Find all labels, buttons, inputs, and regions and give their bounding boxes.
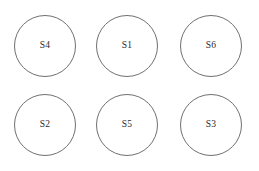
node-s1[interactable]: S1 — [96, 15, 158, 77]
node-label: S1 — [122, 41, 132, 51]
diagram-canvas: S4 S1 S6 S2 S5 S3 — [0, 0, 259, 171]
node-label: S3 — [206, 120, 216, 130]
node-label: S6 — [206, 41, 216, 51]
node-s2[interactable]: S2 — [14, 94, 76, 156]
node-s5[interactable]: S5 — [96, 94, 158, 156]
node-label: S4 — [40, 41, 50, 51]
node-label: S5 — [122, 120, 132, 130]
node-s3[interactable]: S3 — [180, 94, 242, 156]
node-s4[interactable]: S4 — [14, 15, 76, 77]
node-label: S2 — [40, 120, 50, 130]
node-s6[interactable]: S6 — [180, 15, 242, 77]
